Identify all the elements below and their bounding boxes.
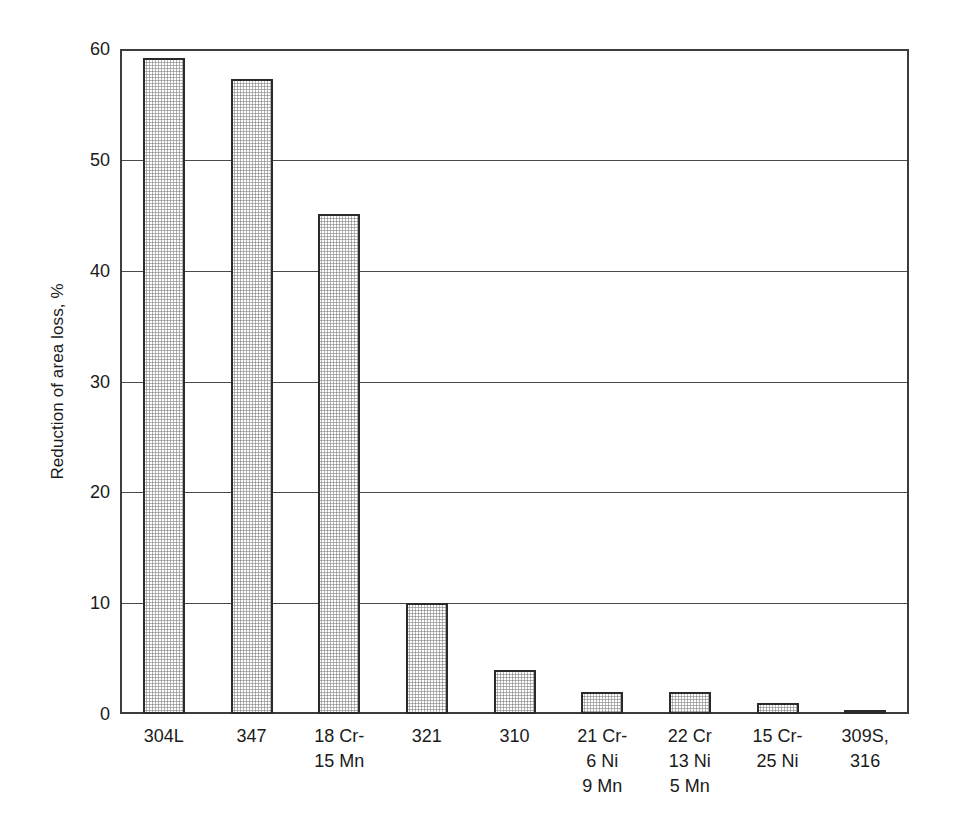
x-tick-label-309S-316: 309S, 316: [821, 724, 909, 774]
bar-22Cr-13Ni-5Mn[interactable]: [669, 692, 711, 714]
bar-slot: [558, 49, 646, 714]
bar-21Cr-6Ni-9Mn[interactable]: [581, 692, 623, 714]
bar-309S-316[interactable]: [844, 710, 886, 714]
x-tick-label-18Cr-15Mn: 18 Cr- 15 Mn: [295, 724, 383, 774]
x-axis-tick-labels: 304L 347 18 Cr- 15 Mn 321 310 21 Cr- 6 N…: [120, 724, 909, 814]
x-tick-label-347: 347: [208, 724, 296, 749]
x-tick-label-310: 310: [471, 724, 559, 749]
y-tick-label: 30: [60, 371, 110, 393]
y-tick-label: 0: [60, 703, 110, 725]
y-tick-label: 10: [60, 592, 110, 614]
bar-slot: [821, 49, 909, 714]
bar-321[interactable]: [406, 603, 448, 714]
x-tick-label-22Cr-13Ni-5Mn: 22 Cr 13 Ni 5 Mn: [646, 724, 734, 799]
x-tick-label-321: 321: [383, 724, 471, 749]
bar-slot: [208, 49, 296, 714]
bar-chart-figure: Reduction of area loss, % 60 50 40 30 20…: [0, 0, 956, 821]
bar-304L[interactable]: [143, 58, 185, 714]
bar-15Cr-25Ni[interactable]: [757, 703, 799, 714]
bar-310[interactable]: [494, 670, 536, 714]
y-axis-tick-labels: 60 50 40 30 20 10 0: [60, 0, 110, 821]
bar-slot: [295, 49, 383, 714]
y-tick-label: 20: [60, 481, 110, 503]
bar-slot: [383, 49, 471, 714]
x-tick-label-304L: 304L: [120, 724, 208, 749]
x-tick-label-21Cr-6Ni-9Mn: 21 Cr- 6 Ni 9 Mn: [558, 724, 646, 799]
y-tick-label: 50: [60, 149, 110, 171]
bar-slot: [120, 49, 208, 714]
bar-slot: [471, 49, 559, 714]
y-tick-label: 40: [60, 260, 110, 282]
bar-slot: [734, 49, 822, 714]
x-tick-label-15Cr-25Ni: 15 Cr- 25 Ni: [734, 724, 822, 774]
bars-layer: [120, 49, 909, 714]
bar-347[interactable]: [231, 79, 273, 714]
bar-18Cr-15Mn[interactable]: [318, 214, 360, 714]
y-tick-label: 60: [60, 38, 110, 60]
bar-slot: [646, 49, 734, 714]
